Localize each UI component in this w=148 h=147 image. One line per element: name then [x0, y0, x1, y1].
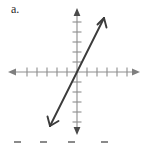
- line-end-arrow-barb-right: [104, 18, 107, 28]
- line-start-arrow-barb-up: [48, 117, 51, 127]
- x-axis-left-arrow-icon: [8, 69, 16, 76]
- coordinate-plane-graph: [0, 0, 148, 147]
- x-axis-right-arrow-icon: [132, 69, 140, 76]
- y-axis-down-arrow-icon: [74, 127, 81, 135]
- clipped-glyph: [68, 141, 75, 143]
- clipped-glyph: [40, 141, 47, 143]
- clipped-glyph: [14, 141, 21, 143]
- figure-root: a.: [0, 0, 148, 147]
- clipped-glyph: [101, 141, 108, 143]
- y-axis-up-arrow-icon: [74, 8, 81, 16]
- clipped-text-row: [0, 141, 148, 147]
- axes-group: [8, 8, 140, 135]
